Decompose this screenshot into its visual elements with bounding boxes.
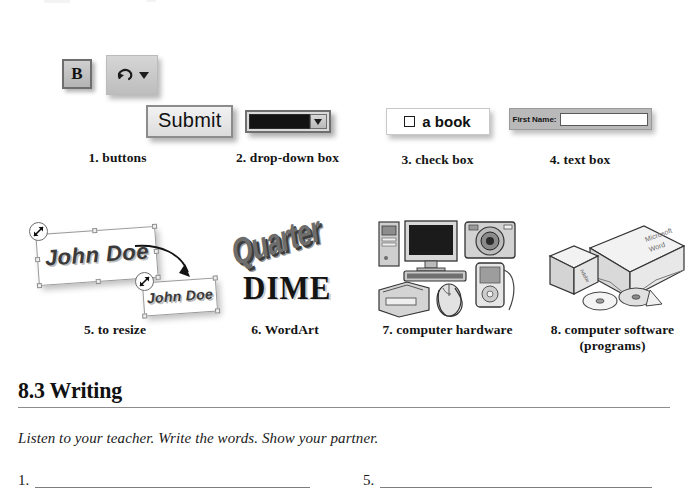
- section-heading: 8.3 Writing: [18, 378, 637, 406]
- mouse-with-hand-icon: [437, 284, 462, 316]
- software-box-large-icon: Microsoft Word: [590, 226, 684, 298]
- keyboard-icon: [404, 271, 466, 281]
- first-name-label: First Name:: [513, 115, 557, 124]
- resize-handle-bottom-center[interactable]: [96, 279, 101, 284]
- digital-camera-icon: [465, 222, 515, 258]
- undo-arrow-icon: [115, 66, 135, 84]
- resize-handle-small-bottom-left[interactable]: [142, 313, 147, 318]
- wordart-text-quarter: Quarter: [230, 208, 323, 275]
- caption-software: 8. computer software (programs): [535, 322, 690, 354]
- widget-resize: John Doe John Doe: [0, 222, 230, 317]
- widget-wordart: Quarter DIME 6. WordArt: [205, 222, 365, 317]
- resize-handle-top-center[interactable]: [92, 228, 97, 233]
- dropdown-box[interactable]: [245, 110, 331, 133]
- writing-section: 8.3 Writing Listen to your teacher. Writ…: [18, 378, 670, 488]
- resize-handle-middle-left[interactable]: [35, 257, 40, 262]
- section-divider: [18, 407, 670, 408]
- printer-icon: [379, 282, 429, 317]
- dropdown-selected-value[interactable]: [249, 114, 310, 129]
- mp3-player-icon: [476, 263, 514, 310]
- widget-textbox: First Name: 4. text box: [470, 108, 690, 130]
- top-cutoff-artifact-left: [44, 0, 70, 3]
- hardware-illustration: [373, 218, 523, 318]
- checkbox-label: a book: [422, 113, 470, 130]
- answer-item-1: 1.: [18, 473, 363, 488]
- monitor-icon: [405, 221, 457, 271]
- button-row: B Submit: [62, 55, 235, 103]
- caption-textbox: 4. text box: [470, 152, 690, 168]
- widget-software: Microsoft Word Adobe 8. computer softwa: [535, 218, 690, 318]
- cd-disc-icon-1: [583, 292, 617, 310]
- caption-wordart: 6. WordArt: [205, 322, 365, 338]
- resize-handle-top-right[interactable]: [152, 224, 157, 229]
- cd-disc-icon-2: [619, 288, 662, 306]
- software-illustration: Microsoft Word Adobe: [538, 218, 688, 318]
- answer-blank-1[interactable]: [35, 473, 310, 488]
- widget-hardware: 7. computer hardware: [345, 218, 550, 318]
- undo-button[interactable]: [106, 55, 158, 95]
- chevron-down-icon[interactable]: [139, 72, 149, 79]
- tower-pc-icon: [379, 222, 399, 266]
- resize-handle-bottom-left[interactable]: [37, 283, 42, 288]
- wordart-illustration: Quarter DIME: [225, 222, 345, 317]
- answer-blank-5[interactable]: [380, 473, 652, 488]
- diagonal-resize-cursor-icon: [29, 222, 48, 241]
- top-cutoff-artifact-right: [146, 0, 156, 2]
- checkbox-input[interactable]: [404, 116, 415, 127]
- resize-illustration: John Doe John Doe: [15, 222, 215, 317]
- software-box-small-icon: Adobe: [550, 246, 598, 294]
- answer-rows: 1. 5.: [18, 473, 670, 488]
- bold-button[interactable]: B: [62, 59, 92, 89]
- wordart-text-dime: DIME: [243, 268, 331, 308]
- first-name-input[interactable]: [560, 113, 648, 126]
- writing-instructions: Listen to your teacher. Write the words.…: [18, 430, 670, 447]
- caret-down-icon: [314, 119, 322, 125]
- caption-hardware: 7. computer hardware: [345, 322, 550, 338]
- answer-number-5: 5.: [363, 473, 374, 488]
- curved-arrow-icon: [133, 240, 205, 288]
- caption-resize: 5. to resize: [0, 322, 230, 338]
- textbox-container: First Name:: [509, 108, 652, 130]
- answer-item-5: 5.: [363, 473, 670, 488]
- dropdown-arrow-button[interactable]: [310, 114, 327, 129]
- answer-number-1: 1.: [18, 473, 29, 488]
- widget-buttons: B Submit 1. buttons: [0, 55, 235, 103]
